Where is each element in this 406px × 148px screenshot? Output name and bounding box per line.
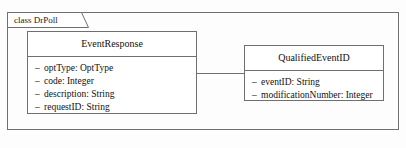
- association-connector: [196, 73, 244, 74]
- attribute-label: code: Integer: [44, 75, 94, 88]
- attribute-row: – code: Integer: [28, 75, 196, 88]
- attribute-row: – optType: OptType: [28, 62, 196, 75]
- attribute-label: eventID: String: [261, 76, 320, 89]
- attribute-label: requestID: String: [44, 101, 110, 114]
- attribute-list-qualified-event-id: – eventID: String – modificationNumber: …: [245, 71, 383, 108]
- visibility-marker: –: [35, 75, 44, 88]
- visibility-marker: –: [252, 76, 261, 89]
- visibility-marker: –: [252, 89, 261, 102]
- package-tab-label: class DrPoll: [14, 13, 58, 27]
- attribute-label: description: String: [44, 88, 114, 101]
- attribute-row: – eventID: String: [245, 76, 383, 89]
- attribute-label: modificationNumber: Integer: [261, 89, 373, 102]
- visibility-marker: –: [35, 88, 44, 101]
- attribute-list-event-response: – optType: OptType – code: Integer – des…: [28, 57, 196, 120]
- attribute-row: – modificationNumber: Integer: [245, 89, 383, 102]
- attribute-row: – description: String: [28, 88, 196, 101]
- class-box-event-response[interactable]: EventResponse – optType: OptType – code:…: [27, 31, 197, 114]
- class-box-qualified-event-id[interactable]: QualifiedEventID – eventID: String – mod…: [244, 45, 384, 101]
- attribute-row: – requestID: String: [28, 101, 196, 114]
- class-name-event-response: EventResponse: [28, 32, 196, 57]
- uml-class-diagram-canvas: class DrPoll EventResponse – optType: Op…: [0, 0, 406, 148]
- class-name-qualified-event-id: QualifiedEventID: [245, 46, 383, 71]
- attribute-label: optType: OptType: [44, 62, 113, 75]
- visibility-marker: –: [35, 62, 44, 75]
- visibility-marker: –: [35, 101, 44, 114]
